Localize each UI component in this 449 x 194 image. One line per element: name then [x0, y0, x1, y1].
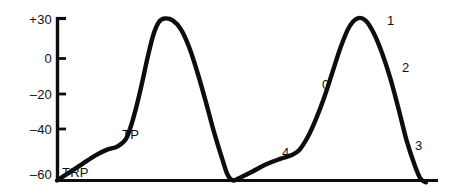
- y-tick-label-plus30: +30: [12, 12, 52, 27]
- annotation-phase-0: 0: [322, 77, 329, 92]
- y-tick-label-minus60: –60: [12, 167, 52, 182]
- annotation-trp: TRP: [62, 165, 89, 180]
- annotation-phase-2: 2: [402, 60, 409, 75]
- annotation-phase-1: 1: [387, 13, 394, 28]
- annotation-phase-3: 3: [415, 138, 422, 153]
- y-tick-label-minus20: –20: [12, 87, 52, 102]
- annotation-tp: TP: [122, 127, 139, 142]
- y-tick-label-minus40: –40: [12, 122, 52, 137]
- action-potential-figure: +30 0 –20 –40 –60 TRP TP 4 0 1 2 3: [0, 0, 449, 194]
- action-potential-curve: [57, 18, 426, 182]
- y-tick-label-0: 0: [12, 51, 52, 66]
- annotation-phase-4: 4: [282, 145, 289, 160]
